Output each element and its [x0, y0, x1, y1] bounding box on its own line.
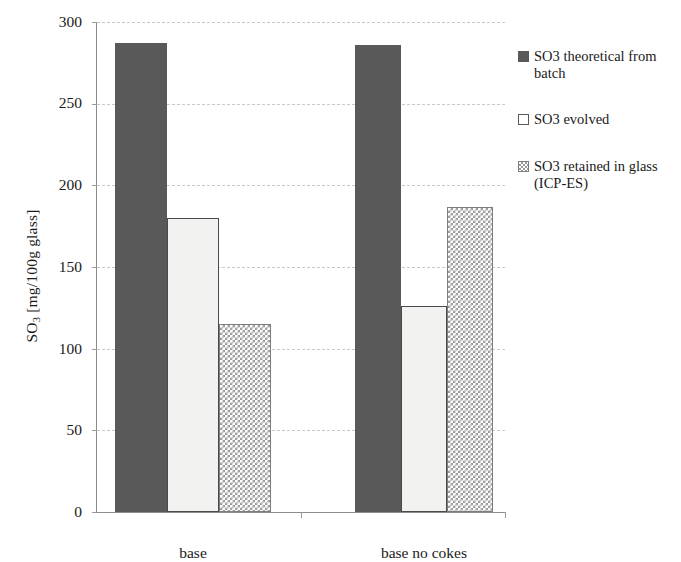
legend-item-theoretical: SO3 theoretical from batch: [518, 48, 678, 81]
x-axis-divider: [301, 512, 302, 518]
legend-label-theoretical: SO3 theoretical from batch: [534, 48, 678, 81]
legend-item-evolved: SO3 evolved: [518, 111, 678, 128]
legend-label-evolved: SO3 evolved: [534, 111, 609, 128]
bar-base-no-cokes-retained: [447, 207, 493, 512]
bar-base-no-cokes-theoretical: [355, 45, 401, 512]
bar-base-no-cokes-evolved: [401, 306, 447, 512]
legend-label-retained: SO3 retained in glass (ICP-ES): [534, 158, 678, 191]
bar-base-evolved: [167, 218, 219, 512]
x-axis-end-tick: [505, 512, 506, 518]
y-tick-label-150: 150: [38, 259, 82, 275]
y-tickmark-300: [92, 22, 97, 23]
y-tickmark-250: [92, 104, 97, 105]
y-tick-label-50: 50: [38, 422, 82, 438]
y-tick-label-100: 100: [38, 341, 82, 357]
bar-base-retained: [219, 324, 271, 512]
legend-swatch-icon-retained: [518, 161, 529, 172]
gridline-300: [97, 22, 505, 23]
y-tick-label-0: 0: [38, 504, 82, 520]
y-tick-label-250: 250: [38, 95, 82, 111]
y-tickmark-50: [92, 430, 97, 431]
legend-swatch-icon-theoretical: [518, 51, 529, 62]
y-tick-label-200: 200: [38, 177, 82, 193]
y-tickmark-200: [92, 185, 97, 186]
y-tickmark-150: [92, 267, 97, 268]
x-axis-label-base-no-cokes: base no cokes: [355, 544, 493, 562]
legend-item-retained: SO3 retained in glass (ICP-ES): [518, 158, 678, 191]
y-tickmark-0: [92, 512, 97, 513]
x-axis-label-base: base: [115, 544, 271, 562]
y-tickmark-100: [92, 349, 97, 350]
plot-area: base base no cokes: [97, 22, 505, 512]
y-axis-tick-labels: 300 250 200 150 100 50 0: [30, 0, 82, 554]
legend: SO3 theoretical from batch SO3 evolved S…: [518, 48, 678, 221]
bar-base-theoretical: [115, 43, 167, 512]
legend-swatch-icon-evolved: [518, 114, 529, 125]
y-tick-label-300: 300: [38, 14, 82, 30]
